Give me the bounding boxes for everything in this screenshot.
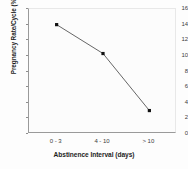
data-point-marker <box>101 52 104 55</box>
y-axis-label: Pregnancy Rate/Cycle (%) <box>10 0 17 88</box>
x-tick-label: > 10 <box>126 138 170 145</box>
y-tick-mark <box>26 133 28 134</box>
data-point-marker <box>148 109 151 112</box>
x-axis-label: Abstinence Interval (days) <box>0 151 188 158</box>
line-chart-svg <box>29 9 177 134</box>
x-tick-label: 0 - 3 <box>34 138 78 145</box>
chart-figure: 0246810121416 Pregnancy Rate/Cycle (%) 0… <box>0 0 188 169</box>
plot-area <box>28 8 176 133</box>
data-series-markers <box>55 23 151 112</box>
data-series-line <box>57 25 150 111</box>
x-tick-label: 4 - 10 <box>80 138 124 145</box>
data-point-marker <box>55 23 58 26</box>
